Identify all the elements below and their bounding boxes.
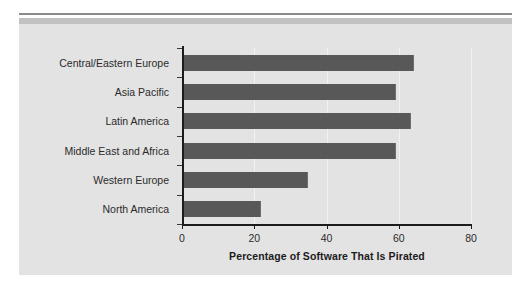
x-axis-tick-label: 0 bbox=[167, 232, 197, 244]
category-label: Central/Eastern Europe bbox=[59, 57, 177, 69]
header-rule bbox=[19, 13, 512, 15]
bar bbox=[184, 143, 396, 159]
category-label: Western Europe bbox=[93, 174, 177, 186]
bar bbox=[184, 172, 308, 188]
y-axis-line bbox=[182, 46, 184, 225]
bar bbox=[184, 201, 261, 217]
x-axis-tick bbox=[182, 224, 183, 229]
bar bbox=[184, 84, 396, 100]
bar bbox=[184, 113, 411, 129]
category-label: Middle East and Africa bbox=[65, 145, 177, 157]
category-label: North America bbox=[102, 203, 177, 215]
x-axis-tick-label: 80 bbox=[456, 232, 486, 244]
y-axis-category-labels: Central/Eastern EuropeAsia PacificLatin … bbox=[19, 48, 177, 224]
x-axis-tick bbox=[471, 224, 472, 229]
x-axis-tick bbox=[327, 224, 328, 229]
x-axis-title: Percentage of Software That Is Pirated bbox=[182, 250, 472, 262]
category-label: Asia Pacific bbox=[115, 86, 177, 98]
bar bbox=[184, 55, 414, 71]
x-axis-tick bbox=[399, 224, 400, 229]
category-label: Latin America bbox=[105, 115, 177, 127]
gridline bbox=[254, 48, 255, 224]
chart-figure-panel: Central/Eastern EuropeAsia PacificLatin … bbox=[19, 24, 512, 275]
gridline bbox=[471, 48, 472, 224]
x-axis-tick-label: 20 bbox=[239, 232, 269, 244]
x-axis-tick bbox=[254, 224, 255, 229]
x-axis-tick-label: 60 bbox=[384, 232, 414, 244]
x-axis-tick-label: 40 bbox=[312, 232, 342, 244]
gridline bbox=[327, 48, 328, 224]
gridline bbox=[399, 48, 400, 224]
